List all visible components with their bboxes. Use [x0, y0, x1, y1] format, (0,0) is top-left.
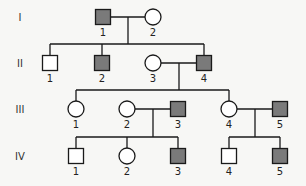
square-icon: [171, 149, 186, 164]
square-icon: [69, 149, 84, 164]
generation-labels: IIIIIIIV: [15, 12, 25, 162]
generation-label: I: [19, 12, 22, 23]
individuals: 1212341234512345: [43, 9, 288, 177]
square-icon: [95, 56, 110, 71]
individual-number: 4: [226, 166, 232, 177]
square-icon: [273, 149, 288, 164]
generation-label: II: [17, 58, 23, 69]
individual-number: 3: [175, 166, 181, 177]
square-icon: [222, 149, 237, 164]
female-unaffected-III-4: 4: [221, 101, 237, 130]
individual-number: 2: [124, 166, 130, 177]
pedigree-svg: IIIIIIIV 1212341234512345: [0, 0, 306, 186]
male-affected-II-4: 4: [197, 56, 212, 84]
male-affected-IV-3: 3: [171, 149, 186, 177]
male-affected-II-2: 2: [95, 56, 110, 84]
male-unaffected-IV-1: 1: [69, 149, 84, 177]
female-unaffected-III-1: 1: [68, 101, 84, 130]
generation-label: IV: [15, 151, 25, 162]
circle-icon: [145, 55, 161, 71]
male-unaffected-IV-4: 4: [222, 149, 237, 177]
individual-number: 5: [277, 119, 283, 130]
square-icon: [43, 56, 58, 71]
male-affected-I-1: 1: [96, 10, 111, 38]
square-icon: [273, 102, 288, 117]
generation-label: III: [16, 104, 25, 115]
male-affected-IV-5: 5: [273, 149, 288, 177]
individual-number: 2: [150, 27, 156, 38]
individual-number: 2: [99, 73, 105, 84]
individual-number: 5: [277, 166, 283, 177]
male-affected-III-3: 3: [171, 102, 186, 130]
individual-number: 1: [73, 166, 79, 177]
circle-icon: [119, 101, 135, 117]
female-unaffected-III-2: 2: [119, 101, 135, 130]
circle-icon: [221, 101, 237, 117]
female-unaffected-IV-2: 2: [119, 148, 135, 177]
male-unaffected-II-1: 1: [43, 56, 58, 84]
pedigree-chart: IIIIIIIV 1212341234512345: [0, 0, 306, 186]
circle-icon: [145, 9, 161, 25]
circle-icon: [68, 101, 84, 117]
individual-number: 4: [226, 119, 232, 130]
circle-icon: [119, 148, 135, 164]
individual-number: 2: [124, 119, 130, 130]
individual-number: 4: [201, 73, 207, 84]
individual-number: 1: [100, 27, 106, 38]
individual-number: 1: [47, 73, 53, 84]
square-icon: [96, 10, 111, 25]
square-icon: [197, 56, 212, 71]
female-unaffected-II-3: 3: [145, 55, 161, 84]
individual-number: 3: [175, 119, 181, 130]
female-unaffected-I-2: 2: [145, 9, 161, 38]
square-icon: [171, 102, 186, 117]
individual-number: 3: [150, 73, 156, 84]
male-affected-III-5: 5: [273, 102, 288, 130]
relationship-lines: [50, 17, 280, 149]
individual-number: 1: [73, 119, 79, 130]
